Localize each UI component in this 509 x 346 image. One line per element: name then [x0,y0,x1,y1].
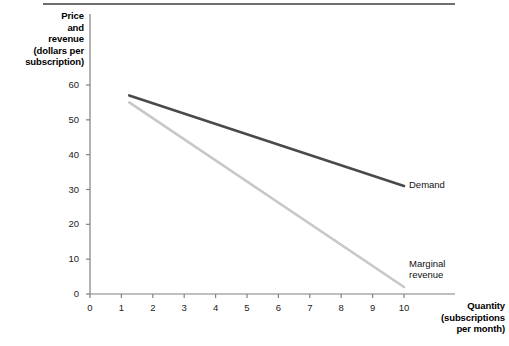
x-axis-tick-label: 5 [237,303,257,313]
chart-figure: Price and revenue (dollars per subscript… [0,0,509,346]
series-label-marginal-revenue: Marginal revenue [409,258,445,280]
x-axis-tick-label: 8 [331,303,351,313]
x-axis-tick-label: 0 [80,303,100,313]
x-axis-tick-label: 4 [206,303,226,313]
y-axis-tick-label: 20 [53,219,79,229]
series-label-marginal-revenue-line-2: revenue [409,269,445,280]
x-axis-tick-label: 2 [143,303,163,313]
x-axis-tick-label: 10 [394,303,414,313]
y-axis-tick-label: 60 [53,80,79,90]
series-line-marginal-revenue [129,102,404,287]
y-axis-tick-label: 40 [53,150,79,160]
axis-lines [90,14,455,294]
x-axis-tick-label: 3 [174,303,194,313]
series-line-demand [129,95,404,186]
y-axis-tick-label: 30 [53,185,79,195]
y-axis-tick-label: 50 [53,115,79,125]
y-axis-tick-label: 10 [53,254,79,264]
data-series-lines [129,95,404,287]
y-axis-tick-label: 0 [53,289,79,299]
x-axis-tick-label: 7 [300,303,320,313]
x-axis-tick-label: 1 [111,303,131,313]
x-axis-tick-label: 9 [363,303,383,313]
series-label-marginal-revenue-line-1: Marginal [409,258,445,269]
x-axis-tick-label: 6 [268,303,288,313]
series-label-demand: Demand [409,179,445,190]
